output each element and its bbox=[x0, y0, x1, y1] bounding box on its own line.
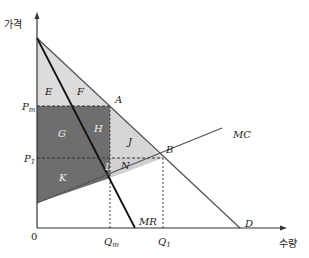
region-l-label: L bbox=[104, 161, 112, 172]
pm-label: Pm bbox=[21, 101, 36, 114]
demand-label: D bbox=[244, 218, 253, 229]
region-e-label: E bbox=[44, 86, 53, 97]
q1-label: Q1 bbox=[158, 236, 171, 249]
mc-label: MC bbox=[232, 129, 251, 140]
region-n bbox=[110, 158, 163, 178]
y-axis-label: 가격 bbox=[4, 18, 22, 30]
origin-label: 0 bbox=[31, 231, 37, 242]
y-axis-arrow-icon bbox=[35, 12, 40, 19]
x-axis-label: 수량 bbox=[279, 238, 297, 249]
region-n-label: N bbox=[120, 160, 131, 171]
region-h-label: H bbox=[93, 123, 103, 134]
x-axis-arrow-icon bbox=[280, 226, 287, 231]
p1-label: P1 bbox=[23, 153, 35, 166]
region-j-label: J bbox=[126, 136, 133, 147]
region-f-label: F bbox=[76, 86, 85, 97]
point-b-label: B bbox=[165, 144, 173, 155]
region-k-label: K bbox=[58, 172, 67, 183]
point-a-label: A bbox=[114, 94, 122, 105]
mr-label: MR bbox=[138, 216, 157, 227]
region-g-label: G bbox=[58, 128, 66, 139]
qm-label: Qm bbox=[104, 236, 119, 249]
monopoly-diagram: 가격 수량 0 Pm P1 Qm Q1 D MR MC A B E F G H … bbox=[0, 0, 309, 258]
